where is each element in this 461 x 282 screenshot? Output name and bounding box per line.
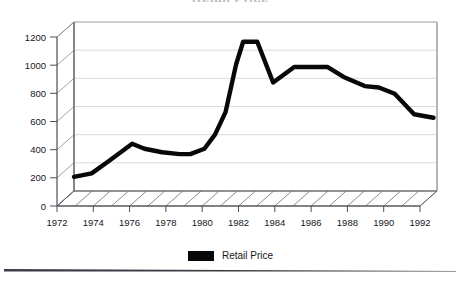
floor-hatch-lines	[57, 191, 437, 206]
x-tick-label: 1974	[83, 217, 104, 228]
legend-label-retail-price: Retail Price	[222, 250, 273, 261]
chart-figure: Retail Price	[0, 0, 461, 282]
y-tick-label: 1200	[25, 32, 46, 43]
x-axis	[57, 206, 420, 212]
x-tick-label: 1980	[192, 217, 213, 228]
x-tick-label: 1976	[119, 217, 140, 228]
y-tick-label: 800	[30, 88, 46, 99]
y-tick-label: 1000	[25, 60, 46, 71]
line-chart-plot: 0 200 400 600 800 1000 1200	[0, 0, 461, 250]
x-tick-label: 1978	[155, 217, 176, 228]
y-tick-label: 600	[30, 116, 46, 127]
series-retail-price	[74, 42, 433, 177]
bottom-divider-rule	[4, 269, 456, 272]
legend-swatch-retail-price	[188, 251, 214, 261]
chart-legend: Retail Price	[0, 250, 461, 261]
x-axis-ticks	[57, 206, 420, 212]
x-tick-label: 1972	[46, 217, 67, 228]
y-axis-ticks	[50, 37, 57, 206]
y-tick-label: 200	[30, 172, 46, 183]
gridlines	[74, 22, 437, 191]
x-tick-label: 1992	[409, 217, 430, 228]
x-tick-label: 1982	[228, 217, 249, 228]
series-line-retail-price	[74, 42, 433, 177]
x-tick-label: 1988	[337, 217, 358, 228]
plot-floor	[57, 191, 437, 206]
x-tick-label: 1984	[264, 217, 285, 228]
y-tick-label: 0	[41, 201, 46, 212]
x-axis-tick-labels: 1972 1974 1976 1978 1980 1982 1984 1986 …	[46, 217, 430, 228]
y-tick-label: 400	[30, 144, 46, 155]
x-tick-label: 1986	[301, 217, 322, 228]
plot-left-wall	[57, 22, 74, 206]
x-tick-label: 1990	[373, 217, 394, 228]
y-axis-tick-labels: 0 200 400 600 800 1000 1200	[25, 32, 46, 212]
